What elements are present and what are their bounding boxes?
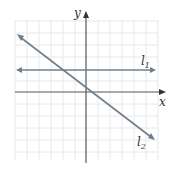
y-axis-label: y bbox=[74, 6, 81, 20]
x-axis-label: x bbox=[159, 95, 166, 109]
coordinate-plane bbox=[0, 0, 174, 173]
l1-label: l1 bbox=[141, 54, 150, 70]
l2-label: l2 bbox=[137, 135, 146, 151]
